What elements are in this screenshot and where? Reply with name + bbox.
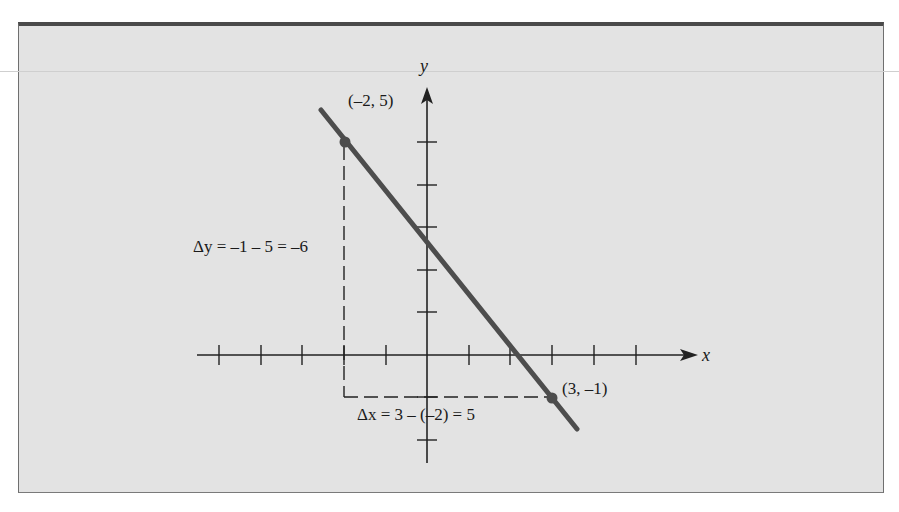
y-axis: y	[417, 56, 437, 463]
point-label-1: (–2, 5)	[348, 91, 393, 110]
delta-x-annotation: Δx = 3 – (–2) = 5	[357, 405, 475, 424]
x-axis-label: x	[701, 345, 710, 365]
rise-run-guides	[344, 146, 548, 397]
point-marker-2	[547, 393, 558, 404]
y-axis-label: y	[418, 56, 428, 76]
delta-y-annotation: Δy = –1 – 5 = –6	[193, 237, 308, 256]
x-axis: x	[197, 345, 710, 365]
coordinate-plane: x y (–2, 5) (3, –1) Δy = –1 – 5 = –6 Δx …	[0, 0, 899, 512]
point-label-2: (3, –1)	[562, 379, 607, 398]
plotted-line	[321, 110, 577, 429]
point-marker-1	[340, 137, 351, 148]
